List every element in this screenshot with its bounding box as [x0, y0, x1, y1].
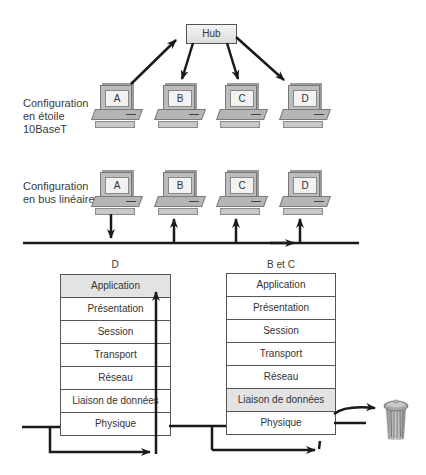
monitor-icon: C: [225, 172, 257, 198]
layer-application: Application: [61, 275, 170, 298]
layer-session: Session: [61, 321, 170, 344]
osi-stack-d: Application Présentation Session Transpo…: [60, 274, 171, 436]
computer-base: [154, 109, 206, 120]
layer-transport: Transport: [227, 343, 335, 366]
monitor-icon: D: [288, 172, 320, 198]
monitor-icon: A: [100, 172, 132, 198]
layer-data-link: Liaison de données: [227, 389, 335, 412]
monitor-icon: C: [225, 85, 257, 111]
star-computer-a: A: [93, 85, 143, 129]
layer-physical: Physique: [61, 413, 170, 435]
layer-session: Session: [227, 320, 335, 343]
computer-label: B: [168, 90, 192, 107]
layer-network: Réseau: [61, 367, 170, 390]
bus-computer-d: D: [281, 172, 331, 216]
monitor-icon: B: [163, 172, 195, 198]
computer-base: [91, 109, 143, 120]
hub-box: Hub: [186, 24, 237, 44]
keyboard: [158, 121, 198, 128]
computer-label: A: [105, 177, 129, 194]
layer-physical: Physique: [227, 412, 335, 434]
computer-label: B: [168, 177, 192, 194]
computer-base: [154, 196, 206, 207]
computer-base: [216, 196, 268, 207]
computer-label: D: [293, 90, 317, 107]
star-label-line: en étoile: [23, 110, 88, 123]
layer-presentation: Présentation: [61, 298, 170, 321]
bus-computer-b: B: [156, 172, 206, 216]
monitor-icon: B: [163, 85, 195, 111]
stack-bc-title: B et C: [226, 258, 336, 271]
keyboard: [283, 121, 323, 128]
computer-label: C: [230, 90, 254, 107]
star-label-line: 10BaseT: [23, 123, 88, 136]
layer-network: Réseau: [227, 366, 335, 389]
keyboard: [158, 208, 198, 215]
layer-presentation: Présentation: [227, 297, 335, 320]
computer-label: A: [105, 90, 129, 107]
bus-label-line: en bus linéaire: [23, 193, 95, 206]
computer-base: [216, 109, 268, 120]
keyboard: [95, 121, 135, 128]
monitor-icon: D: [288, 85, 320, 111]
keyboard: [283, 208, 323, 215]
star-label-line: Configuration: [23, 97, 88, 110]
computer-label: D: [293, 177, 317, 194]
bus-label-line: Configuration: [23, 180, 95, 193]
star-computer-c: C: [218, 85, 268, 129]
keyboard: [220, 121, 260, 128]
star-config-label: Configuration en étoile 10BaseT: [23, 97, 88, 136]
keyboard: [95, 208, 135, 215]
computer-base: [91, 196, 143, 207]
layer-data-link: Liaison de données: [61, 390, 170, 413]
trash-can-icon: [383, 399, 409, 441]
star-computer-b: B: [156, 85, 206, 129]
layer-application: Application: [227, 274, 335, 297]
computer-label: C: [230, 177, 254, 194]
monitor-icon: A: [100, 85, 132, 111]
bus-config-label: Configuration en bus linéaire: [23, 180, 95, 206]
bus-computer-c: C: [218, 172, 268, 216]
computer-base: [279, 196, 331, 207]
layer-transport: Transport: [61, 344, 170, 367]
osi-stack-bc: Application Présentation Session Transpo…: [226, 273, 336, 435]
star-computer-d: D: [281, 85, 331, 129]
bus-computer-a: A: [93, 172, 143, 216]
computer-base: [279, 109, 331, 120]
stack-d-title: D: [60, 258, 170, 271]
keyboard: [220, 208, 260, 215]
